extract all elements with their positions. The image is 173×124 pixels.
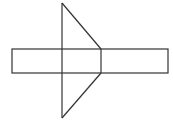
top-triangle-hypotenuse — [62, 3, 101, 49]
horizontal-strip — [12, 49, 168, 73]
bottom-triangle-hypotenuse — [62, 73, 101, 118]
geometric-net-diagram — [0, 0, 173, 124]
